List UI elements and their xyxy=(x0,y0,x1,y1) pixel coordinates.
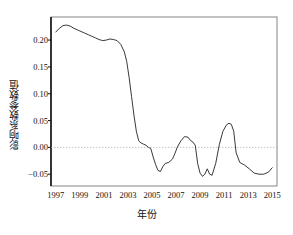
x-tick-label: 2003 xyxy=(119,190,136,200)
x-tick-label: 2011 xyxy=(216,190,233,200)
x-tick-label: 2007 xyxy=(168,190,185,200)
x-tick-label: 1997 xyxy=(47,190,64,200)
x-tick-label: 2001 xyxy=(95,190,112,200)
x-tick-label: 2015 xyxy=(264,190,281,200)
x-tick-label: 1999 xyxy=(71,190,88,200)
y-tick-label: 0.20 xyxy=(18,35,48,45)
x-tick-label: 2013 xyxy=(240,190,257,200)
x-tick-label: 2005 xyxy=(143,190,160,200)
y-axis-title: 影响系数参数值 xyxy=(4,60,26,170)
x-axis-title: 年份 xyxy=(0,206,293,221)
y-tick-label: −0.05 xyxy=(18,169,48,179)
x-tick-label: 2009 xyxy=(192,190,209,200)
